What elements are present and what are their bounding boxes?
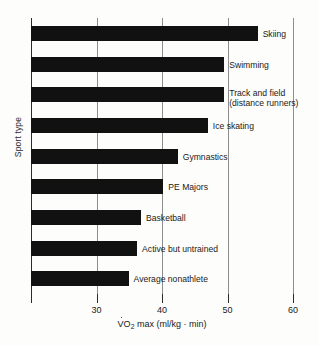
x-axis-origin-tick: [31, 294, 32, 303]
bar[interactable]: [31, 179, 163, 194]
bar[interactable]: [31, 87, 224, 102]
x-axis-tick-40: [162, 294, 163, 303]
gridline-60: [293, 18, 294, 294]
bar-label: Swimming: [229, 60, 269, 70]
bar-label-line1: Average nonathlete: [134, 274, 208, 284]
bar-label: PE Majors: [168, 182, 208, 192]
v-dot-symbol: V: [118, 319, 124, 329]
x-axis-title-sub: 2: [131, 323, 135, 330]
bar[interactable]: [31, 210, 141, 225]
bar[interactable]: [31, 26, 258, 41]
bar[interactable]: [31, 57, 224, 72]
bar-label: Track and field(distance runners): [229, 88, 298, 108]
bar[interactable]: [31, 118, 208, 133]
x-axis-title-o: O: [124, 319, 131, 329]
bar-label: Ice skating: [213, 121, 254, 131]
x-axis-title-rest: max (ml/kg · min): [134, 319, 206, 329]
x-axis-tick-label: 30: [91, 305, 101, 315]
bar-label-line1: Skiing: [263, 29, 286, 39]
y-axis-title: Sport type: [13, 97, 23, 177]
bar-label-line1: Gymnastics: [183, 152, 228, 162]
bar[interactable]: [31, 271, 129, 286]
x-axis-tick-50: [228, 294, 229, 303]
x-axis-tick-label: 40: [157, 305, 167, 315]
plot-area: 30405060SkiingSwimmingTrack and field(di…: [31, 18, 293, 294]
bar-label: Average nonathlete: [134, 274, 208, 284]
bar-label-line1: Active but untrained: [142, 244, 218, 254]
x-axis-tick-label: 50: [222, 305, 232, 315]
bar-label: Gymnastics: [183, 152, 228, 162]
bar-label-line1: PE Majors: [168, 182, 208, 192]
bar[interactable]: [31, 241, 137, 256]
bar-label-line1: Track and field: [229, 88, 285, 98]
x-axis-tick-30: [97, 294, 98, 303]
bar-label: Skiing: [263, 29, 286, 39]
x-axis-tick-label: 60: [288, 305, 298, 315]
bar-label-line1: Swimming: [229, 60, 269, 70]
bar-label-line2: (distance runners): [229, 98, 298, 108]
bar-label-line1: Basketball: [146, 213, 186, 223]
x-axis-tick-60: [293, 294, 294, 303]
bar-label: Basketball: [146, 213, 186, 223]
vo2max-bar-chart: Sport type 30405060SkiingSwimmingTrack a…: [0, 0, 319, 346]
bar[interactable]: [31, 149, 178, 164]
bar-label-line1: Ice skating: [213, 121, 254, 131]
bar-label: Active but untrained: [142, 244, 218, 254]
x-axis-title: VO2 max (ml/kg · min): [31, 319, 293, 329]
